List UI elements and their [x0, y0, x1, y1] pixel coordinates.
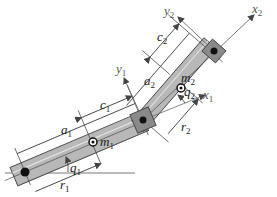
label-r1: r1: [60, 178, 70, 194]
label-r2: r2: [181, 120, 191, 136]
label-x1: x1: [203, 88, 213, 104]
end-effector-joint: [211, 48, 218, 55]
label-m1: m1: [100, 135, 114, 151]
label-q2: q2: [184, 85, 195, 101]
label-a2: a2: [144, 74, 155, 90]
label-a1: a1: [61, 123, 72, 139]
joint-2: [140, 117, 147, 124]
base-joint: [21, 168, 30, 177]
label-x2: x2: [252, 2, 262, 18]
mass-1-marker: [89, 138, 97, 146]
label-c1: c1: [100, 98, 110, 114]
label-c2: c2: [157, 30, 167, 46]
label-y1: y1: [116, 62, 126, 78]
label-q1: q1: [70, 161, 81, 177]
two-link-arm-diagram: [0, 0, 277, 197]
label-y2: y2: [164, 4, 174, 20]
